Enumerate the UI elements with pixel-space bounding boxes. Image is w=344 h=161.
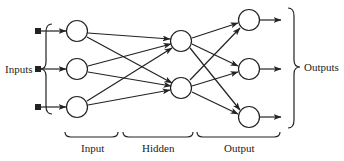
- hidden-layer-label: Hidden: [142, 142, 175, 154]
- outputs-brace: [288, 8, 300, 128]
- output-layer-brace: [197, 132, 280, 137]
- input-node-1: [67, 21, 88, 42]
- input-layer-brace: [65, 132, 118, 137]
- outputs-label: Outputs: [304, 61, 339, 73]
- output-node-1: [239, 10, 260, 31]
- output-layer-label: Output: [224, 142, 255, 154]
- input-node-3: [67, 97, 88, 118]
- input-node-2: [67, 59, 88, 80]
- output-node-3: [239, 107, 260, 128]
- input-source-2: [35, 66, 41, 72]
- neural-network-diagram: Inputs: [0, 0, 344, 161]
- input-source-1: [35, 28, 41, 34]
- output-node-2: [239, 59, 260, 80]
- hidden-node-1: [171, 31, 192, 52]
- input-source-3: [35, 104, 41, 110]
- hidden-node-2: [171, 78, 192, 99]
- inputs-label: Inputs: [5, 63, 33, 75]
- input-layer-label: Input: [81, 142, 104, 154]
- hidden-layer-brace: [123, 132, 193, 137]
